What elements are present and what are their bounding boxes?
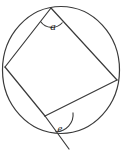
chord-left-bottom [5,67,45,116]
circumscribed-circle [3,7,120,134]
angle-e-label: e [58,122,63,134]
angle-a-label: a [50,20,56,32]
geometry-canvas: a e [0,0,124,155]
geometry-figure: a e [0,0,124,155]
chord-right-top [51,8,117,80]
